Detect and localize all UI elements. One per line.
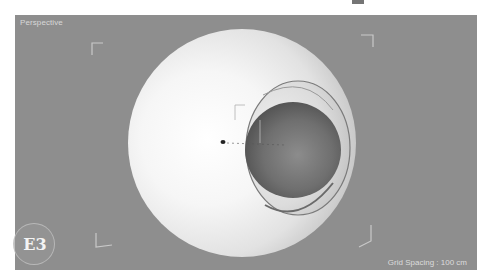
step-badge: E3 <box>13 223 55 265</box>
inner-sphere[interactable] <box>245 102 341 198</box>
3d-viewport[interactable]: Perspective Grid Spacing : 100 cm <box>15 15 477 270</box>
cropped-text-fragment <box>352 0 364 4</box>
step-badge-label: E3 <box>23 235 46 254</box>
grid-spacing-readout: Grid Spacing : 100 cm <box>388 258 467 267</box>
viewport-camera-label[interactable]: Perspective <box>20 18 63 27</box>
object-center-dot <box>221 140 226 144</box>
scene-render <box>15 15 477 270</box>
